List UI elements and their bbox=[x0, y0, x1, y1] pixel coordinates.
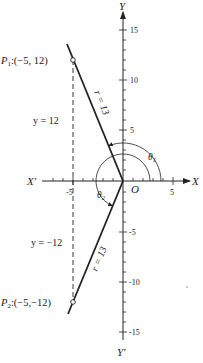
theta1-label: θ1 bbox=[148, 152, 156, 163]
y-tick-label: 5 bbox=[130, 126, 134, 135]
diagram-canvas: Y Y′ X X′ O -5 5 15 10 5 -5 -10 -15 P1:(… bbox=[0, 0, 203, 363]
radius-line-p1 bbox=[67, 44, 123, 181]
point-p1-marker bbox=[71, 58, 76, 63]
radius-line-p2 bbox=[68, 181, 123, 314]
y-neg-axis-label: Y′ bbox=[117, 346, 126, 358]
x-axis-label: X bbox=[191, 175, 200, 187]
y-equals-12-label: y = 12 bbox=[33, 115, 59, 126]
point-p2-label: P2:(−5,−12) bbox=[0, 297, 52, 310]
x-tick-label: 5 bbox=[170, 188, 174, 197]
polar-diagram: Y Y′ X X′ O -5 5 15 10 5 -5 -10 -15 P1:(… bbox=[0, 0, 203, 363]
x-tick-label: -5 bbox=[66, 188, 73, 197]
y-tick-label: -10 bbox=[129, 278, 140, 287]
stray-dot bbox=[186, 286, 188, 288]
x-neg-axis-label: X′ bbox=[26, 175, 37, 187]
y-tick-label: 15 bbox=[130, 26, 138, 35]
y-tick-label: -15 bbox=[129, 328, 140, 337]
point-p1-label: P1:(−5, 12) bbox=[0, 55, 48, 68]
x-axis bbox=[42, 177, 190, 185]
y-tick-label: 10 bbox=[130, 76, 138, 85]
point-p2-marker bbox=[71, 300, 76, 305]
origin-label: O bbox=[131, 183, 139, 195]
theta2-label: θ2 bbox=[97, 190, 106, 201]
y-equals-neg12-label: y = −12 bbox=[31, 237, 62, 248]
y-axis-label: Y bbox=[119, 0, 127, 12]
y-tick-label: -5 bbox=[129, 228, 136, 237]
radius-label-r2: r = 13 bbox=[89, 245, 109, 273]
